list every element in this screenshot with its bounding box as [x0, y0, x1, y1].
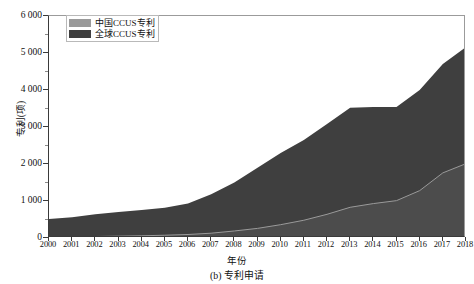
y-axis-title: 专利(项) — [13, 79, 27, 159]
legend-label-china: 中国CCUS专利 — [95, 19, 155, 28]
x-axis-tick-label: 2012 — [318, 240, 334, 249]
chart-legend: 中国CCUS专利 全球CCUS专利 — [66, 15, 159, 42]
x-axis-tick-label: 2009 — [248, 240, 264, 249]
legend-item-global: 全球CCUS专利 — [69, 29, 155, 39]
x-axis-tick-label: 2007 — [202, 240, 218, 249]
legend-label-global: 全球CCUS专利 — [95, 30, 155, 39]
x-axis-title: 年份 — [0, 253, 474, 267]
x-axis-tick-label: 2016 — [410, 240, 426, 249]
legend-swatch-china — [69, 19, 91, 27]
x-axis-tick-label: 2005 — [156, 240, 172, 249]
y-axis-tick-label: 6 000 — [0, 10, 48, 20]
x-axis-tick-label: 2000 — [40, 240, 56, 249]
figure-patent-applications: 01 0002 0003 0004 0005 0006 000 20002001… — [0, 0, 474, 284]
y-axis-tick-label: 5 000 — [0, 47, 48, 57]
x-axis-tick-label: 2001 — [63, 240, 79, 249]
x-axis-tick-label: 2013 — [341, 240, 357, 249]
area-chart-svg — [49, 16, 465, 237]
x-axis-tick-label: 2010 — [271, 240, 287, 249]
x-axis-tick-label: 2014 — [364, 240, 380, 249]
x-axis-tick-label: 2006 — [179, 240, 195, 249]
y-axis-tick-label: 2 000 — [0, 158, 48, 168]
legend-item-china: 中国CCUS专利 — [69, 18, 155, 28]
figure-caption: (b) 专利申请 — [0, 268, 474, 282]
x-axis-tick-label: 2003 — [109, 240, 125, 249]
plot-area — [48, 15, 465, 237]
y-axis-tick-label: 1 000 — [0, 195, 48, 205]
x-axis-tick-label: 2004 — [132, 240, 148, 249]
x-axis-tick-label: 2011 — [295, 240, 311, 249]
legend-swatch-global — [69, 30, 91, 38]
x-axis-tick-label: 2018 — [457, 240, 473, 249]
x-axis-tick-label: 2008 — [225, 240, 241, 249]
x-axis-tick-label: 2002 — [86, 240, 102, 249]
x-axis-tick-label: 2015 — [387, 240, 403, 249]
x-axis-tick-label: 2017 — [434, 240, 450, 249]
